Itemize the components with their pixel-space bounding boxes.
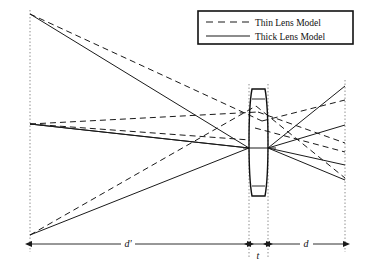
lens-ray-diagram: d' t d Thin Lens Model Thick Lens Model: [0, 0, 366, 273]
object-distance-label: d': [124, 238, 132, 249]
legend-item-thin-lens-label: Thin Lens Model: [255, 18, 321, 28]
legend: Thin Lens Model Thick Lens Model: [198, 11, 353, 44]
lens-thickness-label: t: [257, 250, 260, 261]
diagram-canvas: d' t d Thin Lens Model Thick Lens Model: [0, 0, 366, 273]
legend-item-thick-lens-label: Thick Lens Model: [255, 32, 326, 42]
